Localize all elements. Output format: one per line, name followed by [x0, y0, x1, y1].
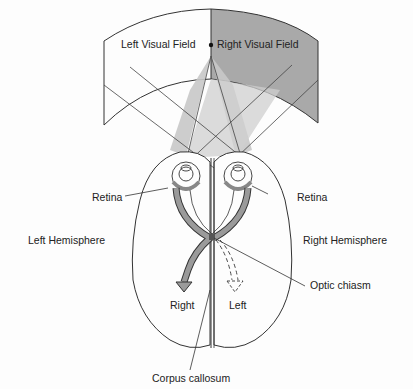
right-visual-field-label: Right Visual Field: [217, 38, 299, 50]
visual-pathway-diagram: Left Visual Field Right Visual Field Ret…: [0, 0, 413, 389]
left-visual-field-label: Left Visual Field: [121, 38, 196, 50]
arrow-right-label: Right: [170, 299, 195, 311]
right-hemisphere-label: Right Hemisphere: [303, 234, 387, 246]
retina-left-label: Retina: [92, 191, 123, 203]
left-eye: [172, 162, 200, 190]
right-eye: [224, 162, 252, 190]
fixation-point: [209, 43, 213, 47]
corpus-callosum-label: Corpus callosum: [152, 372, 230, 384]
optic-chiasm-label: Optic chiasm: [310, 279, 371, 291]
left-hemisphere-label: Left Hemisphere: [28, 234, 105, 246]
brain-outline: [132, 152, 291, 348]
arrow-left-label: Left: [229, 299, 247, 311]
retina-right-label: Retina: [297, 191, 328, 203]
